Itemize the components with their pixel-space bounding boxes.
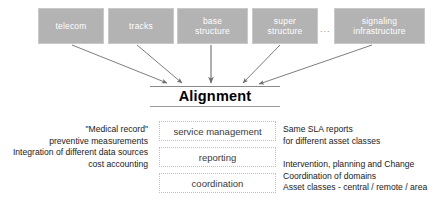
center-box-service-management[interactable]: service management: [159, 121, 276, 141]
center-box-coordination[interactable]: coordination: [159, 173, 276, 193]
alignment-title: Alignment: [150, 87, 280, 106]
left-notes-text: "Medical record" preventive measurements…: [13, 124, 148, 170]
center-box-reporting-label: reporting: [199, 152, 237, 163]
diagram-canvas: telecom tracks base structure super stru…: [0, 0, 436, 200]
center-box-coordination-label: coordination: [192, 178, 244, 189]
alignment-heading-group: Alignment: [150, 86, 280, 107]
center-box-reporting[interactable]: reporting: [159, 147, 276, 167]
center-box-service-management-label: service management: [173, 126, 261, 137]
arrow-telecom-to-alignment: [72, 45, 167, 83]
arrow-tracks-to-alignment: [137, 45, 182, 83]
right-notes-bottom-text: Intervention, planning and Change Coordi…: [283, 159, 427, 194]
right-notes-top-text: Same SLA reports for different asset cla…: [283, 124, 380, 147]
arrow-signaling-infrastructure-to-alignment: [259, 45, 372, 84]
alignment-rule-bottom: [150, 106, 280, 107]
arrow-super-structure-to-alignment: [243, 45, 280, 83]
